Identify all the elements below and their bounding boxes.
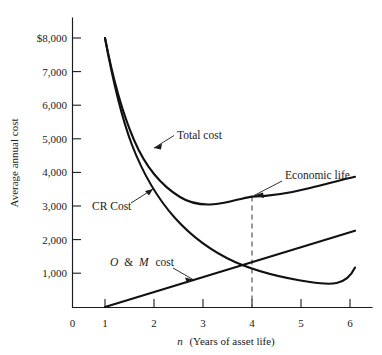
y-tick-label-8000: $8,000 (37, 32, 68, 44)
x-axis-title: n (Years of asset life) (177, 335, 275, 348)
origin-label-0: 0 (70, 317, 76, 329)
y-tick-label-2000: 2,000 (42, 234, 67, 246)
y-tick-label-7000: 7,000 (42, 66, 67, 78)
x-tick-label-2: 2 (151, 317, 157, 329)
y-tick-label-1000: 1,000 (42, 267, 67, 279)
average-annual-cost-chart: $8,000 7,000 6,000 5,000 4,000 3,000 2,0… (0, 0, 382, 355)
cr-cost-label: CR Cost (92, 200, 132, 212)
x-axis-title-variable: n (177, 335, 183, 347)
om-cost-label-amp: & (124, 256, 133, 268)
y-tick-label-4000: 4,000 (42, 166, 67, 178)
x-tick-label-1: 1 (102, 317, 108, 329)
y-tick-label-6000: 6,000 (42, 99, 67, 111)
om-cost-label: O & M cost (110, 256, 175, 268)
x-tick-label-3: 3 (200, 317, 206, 329)
total-cost-label: Total cost (177, 129, 223, 141)
x-axis-title-rest: (Years of asset life) (189, 335, 275, 348)
economic-life-label: Economic life (285, 169, 350, 181)
x-tick-label-5: 5 (298, 317, 304, 329)
om-cost-label-o: O (110, 256, 119, 268)
y-tick-label-3000: 3,000 (42, 200, 67, 212)
x-tick-label-4: 4 (249, 317, 255, 329)
y-tick-label-5000: 5,000 (42, 133, 67, 145)
x-tick-label-6: 6 (347, 317, 353, 329)
om-cost-label-m: M (138, 256, 150, 268)
y-axis-title: Average annual cost (8, 119, 20, 208)
chart-figure: $8,000 7,000 6,000 5,000 4,000 3,000 2,0… (0, 0, 382, 355)
om-cost-label-rest: cost (155, 256, 174, 268)
